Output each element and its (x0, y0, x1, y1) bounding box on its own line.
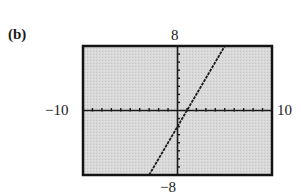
graph-window (0, 0, 301, 196)
